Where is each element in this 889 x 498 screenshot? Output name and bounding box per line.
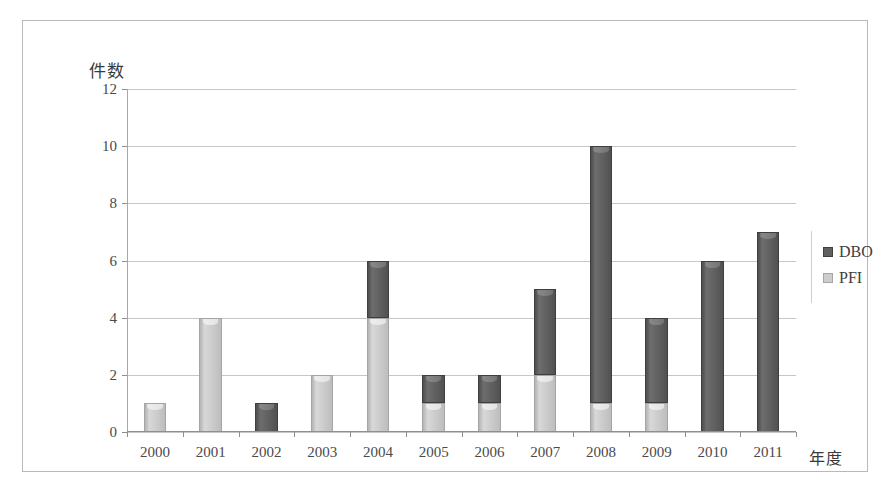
x-tick-mark xyxy=(462,432,463,437)
x-tick-label: 2004 xyxy=(363,444,393,461)
bar-segment-pfi[interactable] xyxy=(590,403,612,432)
figure-frame: 件数 121086420 200020012002200320042005200… xyxy=(22,20,868,472)
bars-layer xyxy=(127,89,796,432)
x-axis-title: 年度 xyxy=(809,445,843,469)
x-tick-label: 2009 xyxy=(642,444,672,461)
x-tick-label: 2005 xyxy=(419,444,449,461)
legend-label: DBO xyxy=(839,243,873,261)
y-tick-label: 4 xyxy=(110,309,118,326)
plot-area: 121086420 200020012002200320042005200620… xyxy=(127,89,796,432)
bar-group[interactable] xyxy=(255,89,277,432)
legend-swatch-icon xyxy=(823,247,833,257)
x-tick-label: 2006 xyxy=(474,444,504,461)
bar-group[interactable] xyxy=(367,89,389,432)
bar-group[interactable] xyxy=(757,89,779,432)
y-tick-label: 0 xyxy=(110,424,118,441)
bar-segment-pfi[interactable] xyxy=(478,403,500,432)
x-tick-label: 2007 xyxy=(530,444,560,461)
legend-item-dbo[interactable]: DBO xyxy=(823,239,885,265)
bar-group[interactable] xyxy=(701,89,723,432)
x-tick-label: 2010 xyxy=(697,444,727,461)
bar-group[interactable] xyxy=(144,89,166,432)
bar-segment-pfi[interactable] xyxy=(367,318,389,432)
x-tick-mark xyxy=(183,432,184,437)
x-tick-label: 2002 xyxy=(251,444,281,461)
y-tick-label: 2 xyxy=(110,366,118,383)
x-tick-mark xyxy=(294,432,295,437)
bar-segment-dbo[interactable] xyxy=(255,403,277,432)
y-axis-title: 件数 xyxy=(89,57,125,82)
bar-segment-pfi[interactable] xyxy=(311,375,333,432)
x-tick-mark xyxy=(239,432,240,437)
y-tick-label: 12 xyxy=(102,81,117,98)
bar-segment-dbo[interactable] xyxy=(701,261,723,433)
x-tick-mark xyxy=(796,432,797,437)
x-tick-mark xyxy=(406,432,407,437)
legend-swatch-icon xyxy=(823,273,833,283)
bar-group[interactable] xyxy=(478,89,500,432)
x-tick-label: 2000 xyxy=(140,444,170,461)
legend-divider xyxy=(811,231,812,303)
x-tick-label: 2003 xyxy=(307,444,337,461)
bar-segment-dbo[interactable] xyxy=(478,375,500,404)
bar-group[interactable] xyxy=(534,89,556,432)
bar-segment-dbo[interactable] xyxy=(534,289,556,375)
x-tick-mark xyxy=(629,432,630,437)
bar-segment-dbo[interactable] xyxy=(645,318,667,404)
x-tick-mark xyxy=(573,432,574,437)
bar-segment-dbo[interactable] xyxy=(590,146,612,403)
chart-legend: DBOPFI xyxy=(823,239,885,291)
y-tick-label: 8 xyxy=(110,195,118,212)
x-tick-mark xyxy=(350,432,351,437)
x-tick-mark xyxy=(685,432,686,437)
bar-segment-pfi[interactable] xyxy=(422,403,444,432)
x-tick-label: 2001 xyxy=(196,444,226,461)
bar-group[interactable] xyxy=(590,89,612,432)
bar-group[interactable] xyxy=(645,89,667,432)
bar-segment-pfi[interactable] xyxy=(199,318,221,432)
x-tick-mark xyxy=(517,432,518,437)
x-tick-label: 2011 xyxy=(753,444,782,461)
bar-segment-pfi[interactable] xyxy=(645,403,667,432)
bar-segment-pfi[interactable] xyxy=(144,403,166,432)
y-tick-label: 10 xyxy=(102,138,117,155)
x-tick-mark xyxy=(740,432,741,437)
x-tick-label: 2008 xyxy=(586,444,616,461)
bar-group[interactable] xyxy=(199,89,221,432)
bar-segment-dbo[interactable] xyxy=(422,375,444,404)
bar-segment-dbo[interactable] xyxy=(757,232,779,432)
x-tick-mark xyxy=(127,432,128,437)
bar-segment-pfi[interactable] xyxy=(534,375,556,432)
bar-segment-dbo[interactable] xyxy=(367,261,389,318)
y-tick-label: 6 xyxy=(110,252,118,269)
bar-group[interactable] xyxy=(311,89,333,432)
legend-item-pfi[interactable]: PFI xyxy=(823,265,885,291)
bar-group[interactable] xyxy=(422,89,444,432)
chart-screenshot: 件数 121086420 200020012002200320042005200… xyxy=(0,0,889,498)
legend-label: PFI xyxy=(839,269,862,287)
